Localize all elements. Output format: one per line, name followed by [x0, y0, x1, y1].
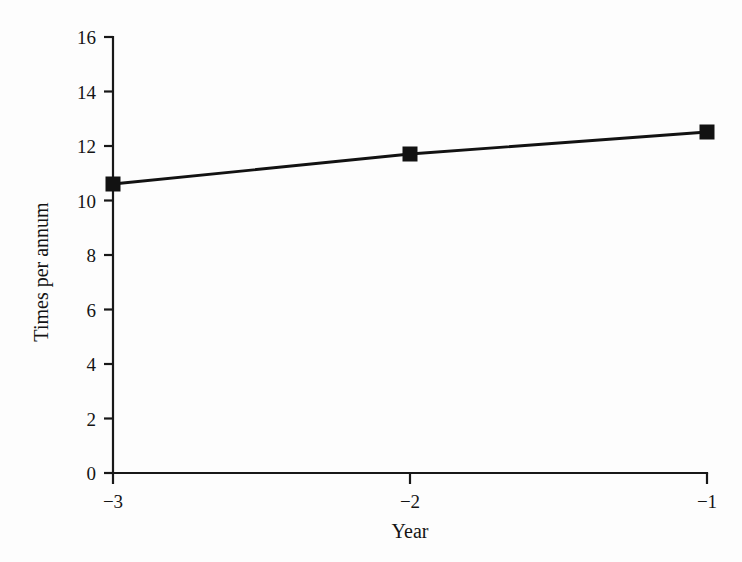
- chart-figure: 16 14 12 10 8 6 4 2 0 −3 −2 −1: [0, 0, 742, 562]
- data-point-marker: [700, 125, 714, 139]
- x-tick-label: −3: [103, 491, 123, 512]
- y-tick-label: 10: [77, 191, 96, 212]
- y-tick-label: 16: [77, 27, 96, 48]
- y-axis-title: Times per annum: [30, 202, 53, 342]
- y-tick-label: 2: [87, 409, 97, 430]
- y-tick-label: 6: [87, 300, 97, 321]
- y-tick-label: 14: [77, 82, 97, 103]
- chart-background: [0, 0, 742, 562]
- y-tick-label: 12: [77, 136, 96, 157]
- line-chart: 16 14 12 10 8 6 4 2 0 −3 −2 −1: [0, 0, 742, 562]
- x-tick-label: −2: [400, 491, 420, 512]
- data-point-marker: [403, 147, 417, 161]
- x-tick-label: −1: [697, 491, 717, 512]
- x-axis-title: Year: [392, 520, 429, 542]
- y-tick-label: 0: [87, 463, 97, 484]
- y-tick-label: 4: [87, 354, 97, 375]
- y-tick-label: 8: [87, 245, 97, 266]
- data-point-marker: [106, 177, 120, 191]
